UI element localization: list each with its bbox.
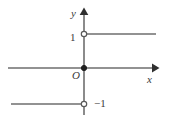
y-tick-label-negative-one: −1 [94,98,106,109]
origin-label: O [72,70,80,81]
y-axis-arrowhead-icon [80,8,89,16]
signum-step-function-graph: y x O 1 −1 [0,0,169,121]
open-circle-marker-at-0-neg1 [81,101,86,106]
x-axis-label: x [147,74,152,85]
filled-dot-marker-at-origin [81,65,86,70]
open-circle-marker-at-0-1 [81,31,86,36]
x-axis-arrowhead-icon [152,64,160,73]
graph-canvas [0,0,169,121]
y-tick-label-one: 1 [70,32,76,43]
y-axis-label: y [71,8,76,19]
